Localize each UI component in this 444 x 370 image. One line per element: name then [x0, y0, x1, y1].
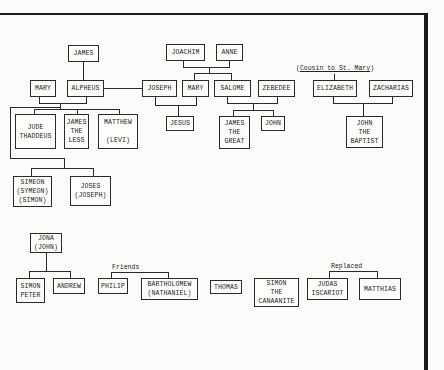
node-james: JAMES	[68, 45, 99, 62]
connector	[104, 88, 142, 89]
connector	[363, 103, 364, 116]
family-tree-diagram: JAMES JOACHIM ANNE MARY ALPHEUS JOSEPH M…	[0, 0, 444, 370]
connector	[194, 73, 195, 80]
connector	[83, 62, 84, 80]
node-simon-the-canaanite: SIMON THE CANAANITE	[254, 278, 299, 307]
node-elizabeth: ELIZABETH	[313, 80, 357, 97]
node-jona-john: JONA (JOHN)	[30, 233, 62, 253]
node-alpheus: ALPHEUS	[67, 80, 104, 97]
connector	[64, 158, 65, 168]
node-james-the-great: JAMES THE GREAT	[219, 116, 250, 149]
node-zebedee: ZEBEDEE	[258, 80, 295, 97]
connector	[29, 271, 71, 272]
node-simon-peter: SIMON PETER	[16, 278, 45, 303]
connector	[178, 105, 179, 116]
node-anne: ANNE	[216, 44, 243, 61]
annotation-cousin: (Cousin to St. Mary)	[296, 65, 374, 72]
connector	[233, 110, 274, 111]
connector	[31, 168, 94, 169]
node-jesus: JESUS	[166, 116, 194, 131]
node-mary-mother-of-jesus: MARY	[182, 80, 209, 97]
node-james-the-less: JAMES THE LESS	[64, 114, 89, 149]
frame-border-top	[0, 13, 427, 15]
node-joachim: JOACHIM	[166, 44, 205, 61]
node-philip: PHILIP	[98, 278, 128, 294]
connector	[155, 97, 156, 105]
connector	[10, 107, 61, 108]
node-bartholomew: BARTHOLOMEW (NATHANIEL)	[141, 278, 198, 300]
node-john: JOHN	[261, 116, 285, 131]
connector	[253, 103, 254, 110]
node-simeon: SIMEON (SYMEON) (SIMON)	[13, 176, 52, 207]
annotation-friends: Friends	[112, 264, 139, 271]
frame-border-right	[424, 13, 428, 370]
node-mary-wife-of-alpheus: MARY	[30, 80, 56, 97]
node-judas-iscariot: JUDAS ISCARIOT	[307, 278, 348, 300]
node-joses: JOSES (JOSEPH)	[70, 176, 111, 206]
node-zacharias: ZACHARIAS	[369, 80, 413, 97]
connector	[329, 271, 378, 272]
connector	[155, 105, 197, 106]
connector	[231, 73, 232, 80]
connector	[39, 103, 87, 104]
connector	[10, 158, 64, 159]
annotation-replaced: Replaced	[331, 263, 362, 270]
connector	[31, 168, 32, 176]
connector	[196, 97, 197, 105]
connector	[93, 168, 94, 176]
connector	[29, 271, 30, 278]
connector	[46, 253, 47, 271]
node-matthias: MATTHIAS	[359, 278, 401, 300]
node-joseph: JOSEPH	[142, 80, 177, 97]
node-thomas: THOMAS	[210, 280, 242, 294]
node-john-the-baptist: JOHN THE BAPTIST	[346, 116, 383, 148]
node-jude-thaddeus: JUDE THADDEUS	[15, 114, 56, 149]
connector	[194, 73, 232, 74]
connector	[183, 67, 230, 68]
node-andrew: ANDREW	[53, 278, 85, 294]
connector	[10, 107, 11, 158]
node-salome: SALOME	[214, 80, 251, 97]
connector	[111, 272, 169, 273]
connector	[70, 271, 71, 278]
connector	[377, 271, 378, 278]
node-matthew-levi: MATTHEW (LEVI)	[98, 114, 138, 149]
connector	[329, 271, 330, 278]
